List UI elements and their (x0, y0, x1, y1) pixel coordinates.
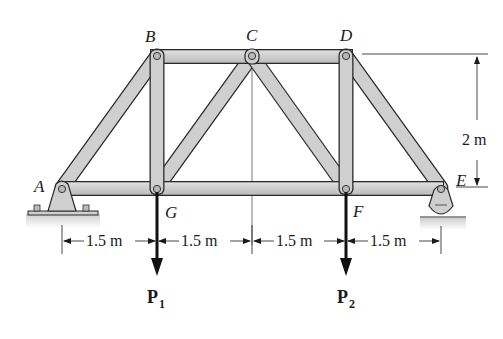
member-DE (346, 56, 441, 188)
span-dimensions: 1.5 m 1.5 m 1.5 m 1.5 m (62, 225, 441, 254)
load-P2-subscript: 2 (349, 297, 355, 311)
span-3-label: 1.5 m (276, 232, 313, 249)
member-CF (252, 56, 346, 188)
joint-label-G: G (165, 203, 177, 222)
pin-F (342, 185, 349, 192)
pin-C (248, 52, 255, 59)
member-GC (157, 56, 252, 188)
joint-label-A: A (33, 177, 45, 196)
load-P2-name: P (337, 287, 348, 307)
span-1-label: 1.5 m (86, 232, 123, 249)
pin-B (153, 52, 160, 59)
load-P1: P1 (147, 192, 165, 311)
svg-text:P1: P1 (147, 287, 165, 311)
joint-label-D: D (339, 26, 353, 45)
span-4-label: 1.5 m (370, 232, 407, 249)
joint-label-B: B (145, 27, 156, 46)
load-P1-name: P (147, 287, 158, 307)
joint-label-C: C (246, 26, 258, 45)
pin-D (342, 52, 349, 59)
pin-G (153, 185, 160, 192)
span-2-label: 1.5 m (181, 232, 218, 249)
load-P1-subscript: 1 (159, 297, 165, 311)
height-label: 2 m (462, 131, 487, 148)
member-AB (62, 56, 157, 188)
member-bottom-chord (60, 181, 444, 196)
joint-label-F: F (352, 202, 364, 221)
member-BG (150, 49, 165, 195)
member-DF (339, 49, 354, 195)
arrow-down-icon (340, 258, 352, 276)
arrow-down-icon (151, 258, 163, 276)
svg-text:P2: P2 (337, 287, 355, 311)
joint-pins (153, 52, 349, 192)
truss-diagram: B C D A E G F 2 m 1.5 m 1.5 m 1.5 m 1.5 … (0, 0, 503, 339)
